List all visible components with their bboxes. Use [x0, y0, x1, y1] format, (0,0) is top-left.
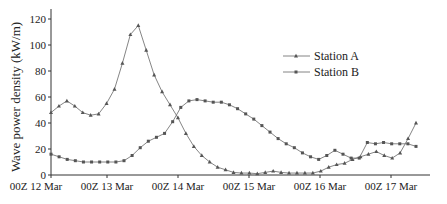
square-marker-icon: [131, 154, 134, 157]
square-marker-icon: [277, 137, 280, 140]
square-marker-icon: [374, 142, 377, 145]
y-axis-title: Wave power density (kW/m): [8, 22, 23, 172]
square-marker-icon: [74, 159, 77, 162]
square-marker-icon: [301, 151, 304, 154]
y-tick-label: 120: [30, 13, 47, 25]
square-marker-icon: [252, 118, 255, 121]
x-axis: 00Z 12 Mar00Z 13 Mar00Z 14 Mar00Z 15 Mar…: [10, 175, 430, 192]
square-marker-icon: [171, 120, 174, 123]
square-marker-icon: [398, 142, 401, 145]
square-marker-icon: [187, 99, 190, 102]
y-tick-label: 100: [30, 39, 47, 51]
square-marker-icon: [123, 159, 126, 162]
square-marker-icon: [293, 146, 296, 149]
square-marker-icon: [163, 132, 166, 135]
square-marker-icon: [58, 155, 61, 158]
square-marker-icon: [390, 142, 393, 145]
triangle-marker-icon: [160, 90, 164, 94]
triangle-marker-icon: [414, 121, 418, 125]
square-marker-icon: [382, 141, 385, 144]
triangle-marker-icon: [112, 87, 116, 91]
square-marker-icon: [220, 101, 223, 104]
square-marker-icon: [269, 131, 272, 134]
square-marker-icon: [179, 106, 182, 109]
triangle-marker-icon: [136, 23, 140, 27]
square-marker-icon: [98, 161, 101, 164]
x-tick-label: 00Z 14 Mar: [152, 180, 205, 192]
y-tick-label: 40: [35, 117, 47, 129]
y-axis: 020406080100120: [30, 9, 52, 181]
legend-label: Station B: [314, 65, 359, 79]
square-marker-icon: [204, 99, 207, 102]
square-marker-icon: [406, 142, 409, 145]
triangle-marker-icon: [65, 99, 69, 103]
square-marker-icon: [155, 136, 158, 139]
triangle-marker-icon: [57, 104, 61, 108]
triangle-marker-icon: [216, 165, 220, 169]
triangle-marker-icon: [374, 149, 378, 153]
square-marker-icon: [106, 161, 109, 164]
square-marker-icon: [66, 158, 69, 161]
triangle-marker-icon: [406, 136, 410, 140]
legend-item: Station A: [283, 49, 359, 63]
y-tick-label: 20: [35, 143, 47, 155]
square-marker-icon: [147, 140, 150, 143]
square-marker-icon: [90, 161, 93, 164]
square-marker-icon: [50, 153, 53, 156]
square-marker-icon: [260, 124, 263, 127]
triangle-marker-icon: [184, 131, 188, 135]
x-tick-label: 00Z 13 Mar: [81, 180, 134, 192]
square-marker-icon: [309, 155, 312, 158]
x-tick-label: 00Z 17 Mar: [365, 180, 418, 192]
square-marker-icon: [342, 153, 345, 156]
square-marker-icon: [415, 145, 418, 148]
square-marker-icon: [244, 112, 247, 115]
x-tick-label: 00Z 16 Mar: [294, 180, 347, 192]
square-marker-icon: [82, 161, 85, 164]
series-layer: [49, 23, 418, 175]
square-marker-icon: [366, 141, 369, 144]
square-marker-icon: [350, 157, 353, 160]
square-marker-icon: [228, 103, 231, 106]
square-marker-icon: [295, 71, 298, 74]
triangle-marker-icon: [152, 73, 156, 77]
wave-power-chart: 020406080100120 00Z 12 Mar00Z 13 Mar00Z …: [0, 0, 447, 204]
legend: Station AStation B: [283, 49, 359, 79]
triangle-marker-icon: [73, 104, 77, 108]
x-tick-label: 00Z 15 Mar: [223, 180, 276, 192]
series-station-b: [50, 98, 418, 163]
square-marker-icon: [212, 101, 215, 104]
square-marker-icon: [333, 149, 336, 152]
square-marker-icon: [285, 142, 288, 145]
square-marker-icon: [139, 146, 142, 149]
square-marker-icon: [196, 98, 199, 101]
x-tick-label: 00Z 12 Mar: [10, 180, 63, 192]
square-marker-icon: [358, 157, 361, 160]
legend-label: Station A: [314, 49, 359, 63]
square-marker-icon: [114, 161, 117, 164]
square-marker-icon: [325, 154, 328, 157]
square-marker-icon: [317, 158, 320, 161]
y-tick-label: 80: [35, 65, 47, 77]
triangle-marker-icon: [271, 169, 275, 173]
triangle-marker-icon: [144, 48, 148, 52]
square-marker-icon: [236, 107, 239, 110]
triangle-marker-icon: [120, 61, 124, 65]
legend-item: Station B: [283, 65, 359, 79]
y-tick-label: 60: [35, 91, 47, 103]
